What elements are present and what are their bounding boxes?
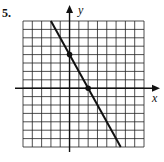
y-axis-label: y bbox=[77, 3, 84, 17]
data-point bbox=[67, 52, 73, 58]
graph-line bbox=[51, 21, 121, 147]
coordinate-graph: x y bbox=[0, 0, 164, 162]
x-axis-label: x bbox=[151, 91, 158, 105]
plot-line bbox=[51, 21, 121, 147]
y-axis-arrow-icon bbox=[66, 5, 73, 13]
data-point bbox=[85, 85, 91, 91]
grid bbox=[23, 21, 144, 147]
